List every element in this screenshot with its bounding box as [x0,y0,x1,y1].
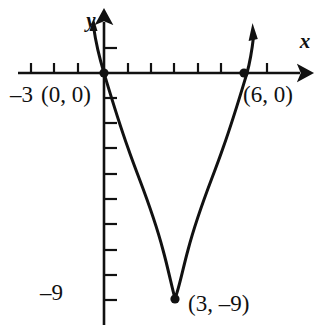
y-tick-label--9: –9 [39,280,63,305]
x-axis-label: x [299,29,311,53]
x-tick-label--3: –3 [9,82,33,107]
label-vertex: (3, –9) [188,291,249,316]
parabola-graph-figure: x y –3 –9 ( [0,0,327,329]
point-root-origin [99,68,108,77]
label-root-origin: (0, 0) [41,82,91,107]
label-root-right: (6, 0) [243,82,293,107]
point-root-right [239,68,248,77]
point-vertex [170,294,179,303]
